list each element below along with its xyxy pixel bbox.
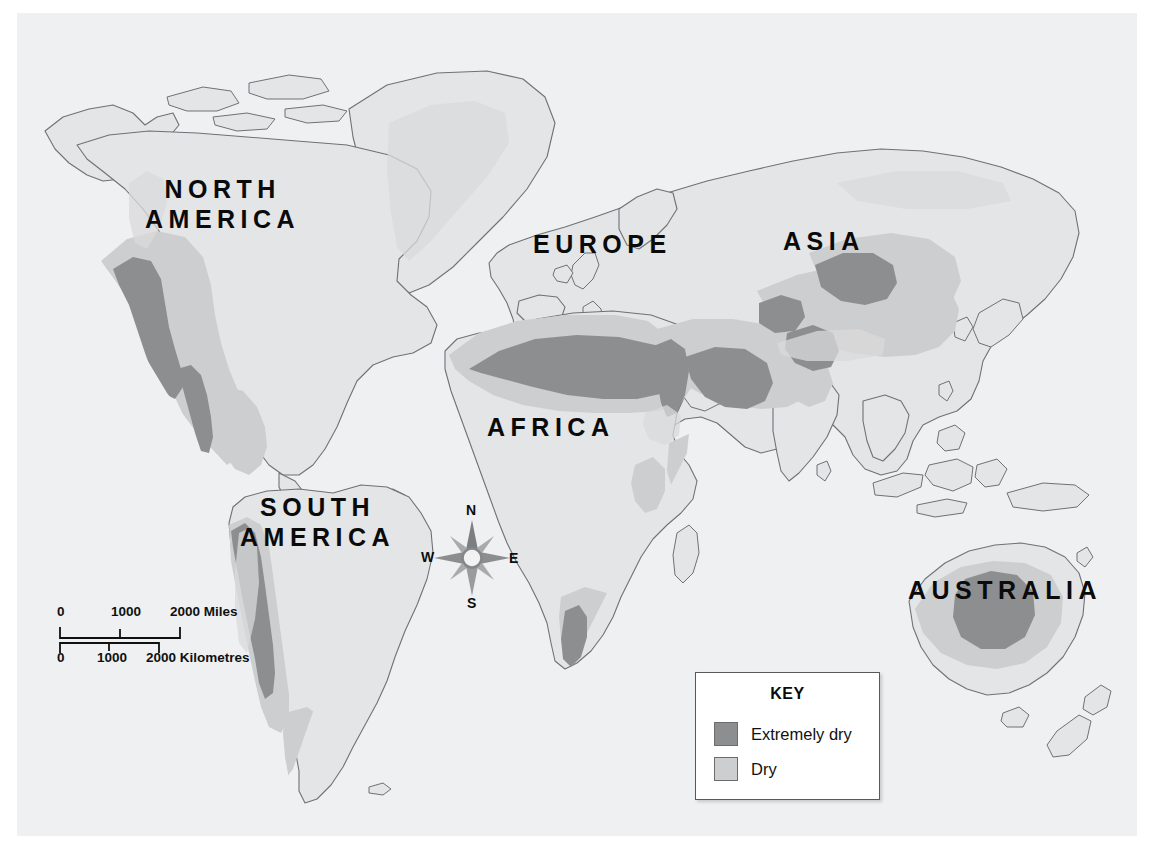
scale-bar-miles-labels: 0 1000 2000 Miles	[57, 604, 262, 621]
land-sri-lanka	[817, 461, 831, 481]
key-swatch-extremely-dry	[714, 722, 738, 746]
scale-bar-kilometres-labels: 0 1000 2000 Kilometres	[57, 650, 262, 667]
extremely-dry-australia	[953, 571, 1035, 649]
land-tasmania	[1001, 707, 1029, 727]
land-new-zealand-n	[1083, 685, 1111, 715]
world-map-graphic: .land { fill: #e4e5e6; stroke: #6f7174; …	[17, 13, 1137, 836]
scale-km-tick-1000: 1000	[97, 650, 127, 665]
land-new-guinea	[1007, 483, 1089, 511]
key-label-extremely-dry: Extremely dry	[751, 725, 852, 744]
compass-label-south: S	[467, 595, 476, 611]
land-sumatra	[873, 473, 923, 497]
land-arctic-island-2	[249, 75, 329, 99]
land-philippines	[937, 425, 965, 451]
land-borneo	[925, 459, 973, 491]
scale-miles-tick-1000: 1000	[111, 604, 141, 619]
land-sulawesi	[975, 459, 1007, 487]
land-new-zealand-s	[1047, 715, 1091, 757]
scale-ruler-miles	[59, 626, 183, 640]
land-madagascar	[673, 525, 699, 583]
compass-label-east: E	[509, 550, 518, 566]
map-panel: .land { fill: #e4e5e6; stroke: #6f7174; …	[17, 13, 1137, 836]
land-falklands	[369, 783, 391, 795]
scale-bar: 0 1000 2000 Miles 0 1000 2000 Kilometres	[57, 604, 262, 672]
land-java	[917, 499, 967, 517]
compass-rose: N E S W	[420, 502, 524, 614]
key-title: KEY	[696, 685, 879, 703]
land-pacific-islet	[1077, 547, 1093, 567]
scale-km-tick-2000: 2000 Kilometres	[146, 650, 250, 665]
scale-miles-tick-0: 0	[57, 604, 65, 619]
map-key-box: KEY Extremely dry Dry	[695, 672, 880, 800]
key-label-dry: Dry	[751, 760, 777, 779]
compass-label-north: N	[466, 502, 476, 518]
key-entry-extremely-dry: Extremely dry	[714, 722, 852, 746]
scale-miles-tick-2000: 2000 Miles	[170, 604, 238, 619]
land-arctic-island-3	[213, 113, 275, 131]
world-arid-map-figure: .land { fill: #e4e5e6; stroke: #6f7174; …	[0, 0, 1154, 851]
scale-km-tick-0: 0	[57, 650, 65, 665]
key-swatch-dry	[714, 757, 738, 781]
compass-label-west: W	[421, 549, 434, 565]
land-arctic-island-1	[167, 87, 239, 111]
key-entry-dry: Dry	[714, 757, 777, 781]
land-arctic-island-4	[285, 105, 347, 123]
